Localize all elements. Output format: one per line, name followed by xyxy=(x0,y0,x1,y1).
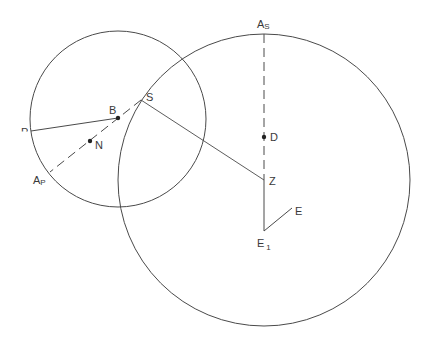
line-s-z xyxy=(141,100,264,180)
label-n: N xyxy=(95,139,103,151)
label-e: E xyxy=(295,205,302,217)
label-s: S xyxy=(146,91,153,103)
point-b xyxy=(116,116,120,120)
label-e1: E1 xyxy=(257,237,271,252)
label-d: D xyxy=(270,131,278,143)
label-ap: AP xyxy=(33,174,46,187)
dashed-line-s-ap xyxy=(50,100,141,172)
label-p: P xyxy=(21,126,28,138)
line-e1-e xyxy=(264,208,292,231)
label-as: AS xyxy=(257,18,270,31)
label-z: Z xyxy=(269,175,276,187)
point-n xyxy=(88,139,92,143)
point-d xyxy=(262,135,266,139)
label-b: B xyxy=(109,104,116,116)
astronomy-diagram: S B N P AP AS D Z E E1 xyxy=(0,0,430,347)
